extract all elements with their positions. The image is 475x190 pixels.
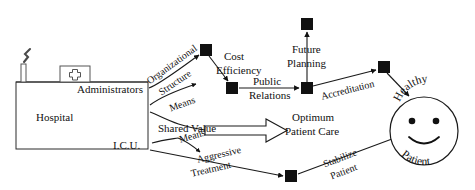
edge-means-lower-curve bbox=[152, 138, 178, 143]
edge-cost-efficiency bbox=[209, 56, 228, 81]
smiley-right-eye bbox=[433, 118, 440, 125]
cross-sign-icon bbox=[60, 66, 90, 82]
node-accreditation[interactable] bbox=[378, 61, 390, 73]
node-future-planning[interactable] bbox=[301, 18, 313, 30]
diagram-graphics bbox=[0, 0, 475, 190]
patient-smiley-icon[interactable] bbox=[390, 97, 458, 165]
chimney-icon bbox=[21, 49, 30, 82]
block-arrow-optimum-patient-care bbox=[205, 119, 287, 142]
edge-aggressive-treatment bbox=[150, 150, 283, 176]
edge-organizational-structure bbox=[149, 55, 199, 88]
edge-means-lower bbox=[178, 138, 200, 152]
node-organizational-structure[interactable] bbox=[200, 44, 212, 56]
hospital-building-shape bbox=[16, 82, 148, 149]
diagram-canvas: Administrators Hospital I.C.U. Organizat… bbox=[0, 0, 475, 190]
node-public-relations[interactable] bbox=[301, 82, 313, 94]
edge-means-upper bbox=[150, 84, 196, 105]
edge-healthy bbox=[387, 73, 409, 96]
node-cost-efficiency[interactable] bbox=[226, 82, 238, 94]
node-aggressive-treatment[interactable] bbox=[285, 170, 297, 182]
edge-shared-value-curve bbox=[150, 112, 205, 130]
edge-accreditation bbox=[313, 70, 376, 86]
smiley-left-eye bbox=[409, 118, 416, 125]
edge-stabilize-patient bbox=[298, 136, 400, 174]
